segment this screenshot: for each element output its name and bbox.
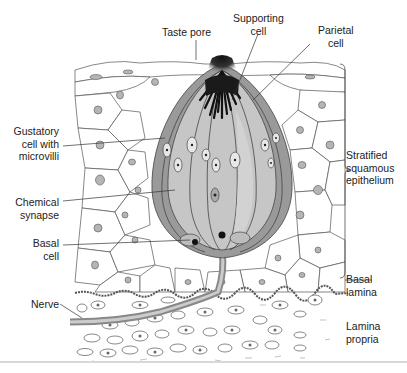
label-lamina-propria: Lamina propria bbox=[346, 320, 380, 345]
lamina-propria-cells bbox=[77, 295, 322, 357]
label-chemical-synapse: Chemical synapse bbox=[15, 196, 59, 221]
taste-bud-diagram: Taste pore Supporting cell Parietal cell… bbox=[0, 0, 407, 373]
label-basal-lamina: Basal lamina bbox=[346, 273, 377, 298]
label-gustatory-cell: Gustatory cell with microvilli bbox=[13, 125, 59, 163]
label-stratified-epithelium: Stratified squamous epithelium bbox=[346, 149, 394, 187]
diagram-artwork bbox=[0, 0, 407, 373]
label-nerve: Nerve bbox=[31, 298, 59, 311]
bottom-divider bbox=[0, 361, 407, 363]
label-basal-cell: Basal cell bbox=[33, 237, 59, 262]
label-parietal-cell: Parietal cell bbox=[318, 24, 354, 49]
label-taste-pore: Taste pore bbox=[162, 26, 211, 39]
label-supporting-cell: Supporting cell bbox=[233, 12, 284, 37]
